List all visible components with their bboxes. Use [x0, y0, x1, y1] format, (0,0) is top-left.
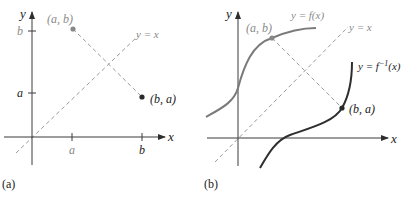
panel-a-reflection-connector — [73, 29, 142, 97]
panel-b-point-ab-label: (a, b) — [246, 21, 272, 35]
panel-b-point-ab — [269, 35, 274, 40]
panel-b-point-ba — [339, 105, 344, 110]
panel-b-line-label: y = x — [348, 21, 372, 33]
panel-b-finv-label-prefix: y = f — [357, 60, 381, 72]
panel-a-y-axis-label: y — [18, 6, 26, 21]
panel-a-tick-label-y-b: b — [17, 24, 23, 38]
panel-b-x-axis-label: x — [390, 131, 397, 146]
panel-a-line-label: y = x — [135, 28, 159, 40]
panel-a-point-ba — [139, 94, 144, 99]
panel-b-finv-label: y = f−1(x) — [357, 59, 401, 73]
panel-a-point-ab — [70, 26, 75, 31]
panel-a: y x a b b a (a, b) (b, a) y = x (a) — [2, 6, 176, 191]
panel-b-f-curve — [206, 28, 316, 117]
panel-a-tick-label-x-b: b — [139, 143, 145, 157]
panel-b-reflection-connector — [272, 38, 342, 108]
panel-b: y x (a, b) (b, a) y = x y = f(x) y = f−1… — [204, 6, 401, 191]
panel-a-x-axis-label: x — [167, 129, 174, 144]
panel-b-y-axis-label: y — [224, 6, 232, 21]
panel-b-finv-curve — [260, 62, 352, 168]
panel-b-finv-label-suffix: (x) — [388, 60, 401, 73]
panel-b-point-ba-label: (b, a) — [349, 102, 375, 116]
inverse-function-diagram: y x a b b a (a, b) (b, a) y = x (a) y x … — [0, 0, 408, 198]
panel-a-caption: (a) — [2, 177, 15, 191]
panel-b-finv-label-sup: −1 — [379, 59, 388, 68]
panel-b-caption: (b) — [204, 177, 218, 191]
panel-a-tick-label-x-a: a — [69, 143, 75, 157]
panel-a-tick-label-y-a: a — [17, 86, 23, 100]
panel-b-f-label: y = f(x) — [290, 9, 324, 22]
panel-a-line-y-equals-x — [16, 36, 138, 153]
panel-a-point-ab-label: (a, b) — [47, 12, 73, 26]
panel-a-point-ba-label: (b, a) — [150, 92, 176, 106]
